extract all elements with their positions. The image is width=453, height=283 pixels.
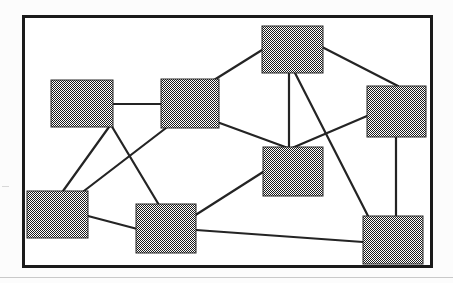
- graph-edge-n6-n8: [196, 230, 363, 242]
- graph-node-n6: [136, 204, 196, 253]
- graph-node-n8: [363, 216, 423, 264]
- graph-edge-n2-n5: [80, 128, 166, 194]
- graph-nodes-layer: [27, 26, 426, 264]
- graph-canvas: [0, 0, 453, 283]
- graph-edge-n2-n3: [214, 50, 262, 80]
- graph-node-n4: [367, 86, 426, 137]
- bottom-rule-divider: [0, 277, 453, 278]
- graph-node-n2: [161, 79, 219, 128]
- graph-edge-n2-n7: [217, 122, 288, 148]
- graph-node-n1: [51, 80, 113, 127]
- graph-edges-layer: [63, 47, 398, 242]
- graph-node-n7: [263, 147, 323, 196]
- graph-edge-n4-n7: [292, 116, 367, 148]
- graph-edge-n1-n5: [63, 127, 109, 191]
- graph-edge-n3-n4: [322, 47, 398, 86]
- graph-node-n3: [262, 26, 323, 73]
- graph-node-n5: [27, 191, 88, 238]
- figure-page: [0, 0, 453, 283]
